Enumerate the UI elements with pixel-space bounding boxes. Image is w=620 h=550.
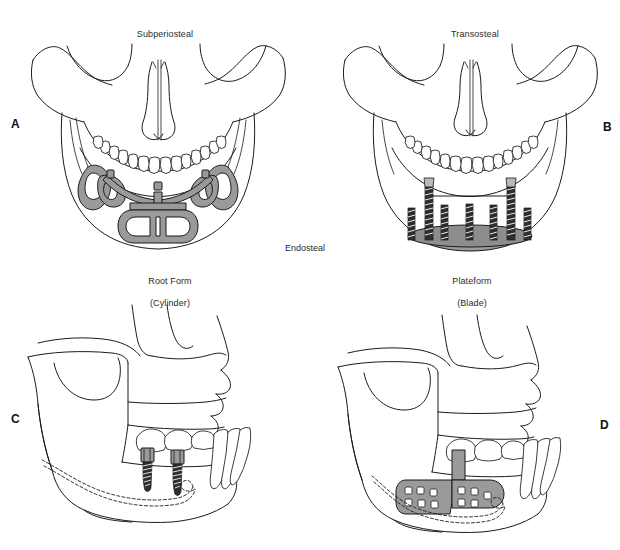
- panel-d-artwork: [0, 0, 620, 550]
- figure-canvas: Subperiosteal A: [0, 0, 620, 550]
- panel-d-skull-lateral: [338, 315, 561, 533]
